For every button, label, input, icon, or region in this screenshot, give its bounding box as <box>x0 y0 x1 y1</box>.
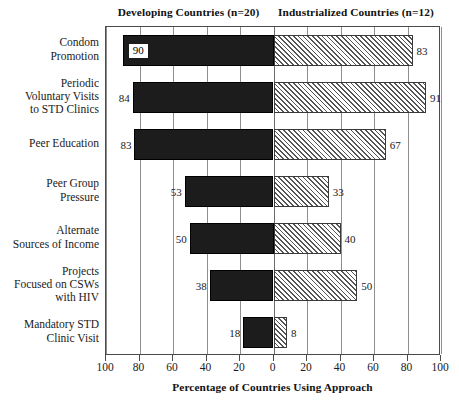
category-label-line: Peer Education <box>0 137 99 150</box>
category-label-line: with HIV <box>0 291 99 304</box>
bar-developing[interactable]: 90 <box>123 35 274 66</box>
x-axis-tick-label: 100 <box>96 361 113 373</box>
bar-value-developing: 50 <box>176 233 187 244</box>
bar-value-industrialized: 33 <box>333 186 344 197</box>
bar-value-industrialized: 83 <box>417 45 428 56</box>
bar-developing[interactable]: 84 <box>133 82 274 113</box>
category-label-line: Mandatory STD <box>0 318 99 331</box>
bar-industrialized[interactable]: 91 <box>274 82 426 113</box>
bar-row: 3850 <box>106 270 439 301</box>
x-axis-tick-labels: 10080604020020406080100 <box>105 361 440 377</box>
category-label: Peer Education <box>0 137 99 150</box>
x-axis-tick-label: 0 <box>270 361 276 373</box>
bar-value-industrialized: 8 <box>291 327 297 338</box>
category-label-line: Voluntary Visits <box>0 90 99 103</box>
category-label-line: Sources of Income <box>0 238 99 251</box>
x-axis-tick-label: 40 <box>200 361 212 373</box>
category-label-line: Promotion <box>0 50 99 63</box>
x-axis-tick-label: 40 <box>334 361 346 373</box>
bar-developing[interactable]: 53 <box>185 176 274 207</box>
bar-value-industrialized: 67 <box>390 139 401 150</box>
bar-industrialized[interactable]: 83 <box>274 35 413 66</box>
category-label-line: Periodic <box>0 77 99 90</box>
bar-row: 8491 <box>106 82 439 113</box>
category-label-line: Projects <box>0 265 99 278</box>
bar-industrialized[interactable]: 8 <box>274 317 287 348</box>
gridline <box>441 27 442 354</box>
category-label-line: Pressure <box>0 191 99 204</box>
bar-value-developing: 38 <box>196 280 207 291</box>
bar-developing[interactable]: 18 <box>243 317 273 348</box>
category-label-line: Condom <box>0 36 99 49</box>
bar-value-industrialized: 91 <box>430 92 441 103</box>
x-axis-tick-label: 100 <box>431 361 448 373</box>
category-label: ProjectsFocused on CSWswith HIV <box>0 265 99 305</box>
bar-value-developing: 84 <box>119 92 130 103</box>
category-label: Mandatory STDClinic Visit <box>0 318 99 344</box>
category-label-line: to STD Clinics <box>0 103 99 116</box>
x-axis-tick-label: 60 <box>166 361 178 373</box>
category-label-line: Focused on CSWs <box>0 278 99 291</box>
bar-industrialized[interactable]: 40 <box>274 223 341 254</box>
x-axis-tick-label: 80 <box>401 361 413 373</box>
bar-value-developing: 83 <box>120 139 131 150</box>
bar-row: 8367 <box>106 129 439 160</box>
bar-value-developing: 18 <box>229 327 240 338</box>
bar-row: 188 <box>106 317 439 348</box>
bar-value-industrialized: 50 <box>361 280 372 291</box>
tornado-bar-chart: Developing Countries (n=20) Industrializ… <box>0 0 459 405</box>
bar-value-developing: 53 <box>171 186 182 197</box>
category-label-column: CondomPromotionPeriodicVoluntary Visitst… <box>0 26 99 355</box>
category-label: CondomPromotion <box>0 36 99 62</box>
x-axis-tick-label: 20 <box>300 361 312 373</box>
bar-value-industrialized: 40 <box>345 233 356 244</box>
bar-rows: 908384918367533350403850188 <box>106 27 439 354</box>
bar-row: 9083 <box>106 35 439 66</box>
category-label: Peer GroupPressure <box>0 177 99 203</box>
x-axis-tick-label: 60 <box>367 361 379 373</box>
category-label: PeriodicVoluntary Visitsto STD Clinics <box>0 77 99 117</box>
bar-developing[interactable]: 38 <box>210 270 274 301</box>
bar-value-developing: 90 <box>128 43 149 59</box>
column-header-industrialized: Industrialized Countries (n=12) <box>272 6 440 18</box>
x-axis-title: Percentage of Countries Using Approach <box>105 381 440 393</box>
x-axis-tick-label: 80 <box>133 361 145 373</box>
plot-area: 908384918367533350403850188 <box>105 26 440 355</box>
category-label-line: Peer Group <box>0 177 99 190</box>
bar-developing[interactable]: 50 <box>190 223 274 254</box>
column-headers: Developing Countries (n=20) Industrializ… <box>105 6 440 26</box>
bar-row: 5333 <box>106 176 439 207</box>
bar-industrialized[interactable]: 33 <box>274 176 329 207</box>
category-label-line: Clinic Visit <box>0 332 99 345</box>
category-label-line: Alternate <box>0 224 99 237</box>
bar-industrialized[interactable]: 50 <box>274 270 358 301</box>
bar-industrialized[interactable]: 67 <box>274 129 386 160</box>
bar-row: 5040 <box>106 223 439 254</box>
column-header-developing: Developing Countries (n=20) <box>105 6 272 18</box>
x-axis-tick-label: 20 <box>233 361 245 373</box>
bar-developing[interactable]: 83 <box>134 129 273 160</box>
category-label: AlternateSources of Income <box>0 224 99 250</box>
